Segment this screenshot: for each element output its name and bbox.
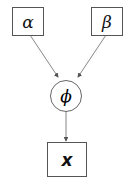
node-phi: ϕ xyxy=(50,80,82,112)
node-beta: β xyxy=(91,7,123,36)
node-x: x xyxy=(47,142,87,177)
node-x-label: x xyxy=(62,150,73,170)
edge-alpha-phi xyxy=(30,35,58,77)
node-beta-label: β xyxy=(102,12,112,32)
edge-beta-phi xyxy=(78,35,106,77)
node-phi-label: ϕ xyxy=(60,86,72,106)
node-alpha: α xyxy=(12,7,44,36)
node-alpha-label: α xyxy=(22,12,33,32)
